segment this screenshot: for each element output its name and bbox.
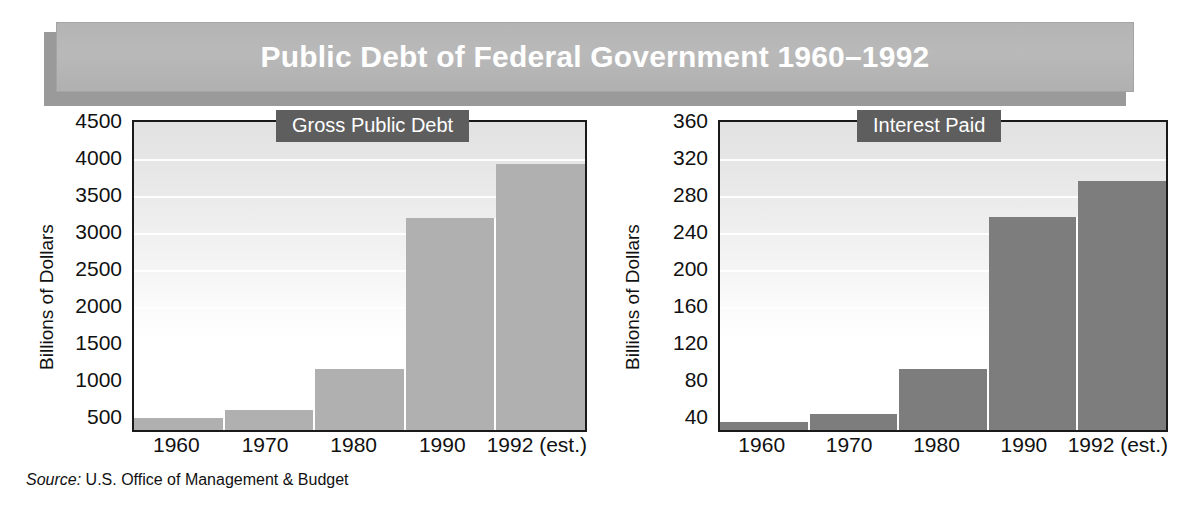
chart-gross-public-debt: Billions of Dollars 4500 4000 3500 3000 … bbox=[24, 112, 589, 482]
bar-1992-est[interactable] bbox=[496, 164, 585, 430]
x-tick-1970: 1970 bbox=[221, 434, 310, 455]
y-tick-3500: 3500 bbox=[75, 184, 122, 205]
plot-area-right bbox=[718, 120, 1168, 432]
x-axis-ticks-left: 1960 1970 1980 1990 1992 (est.) bbox=[132, 434, 587, 455]
plot-area-left bbox=[132, 120, 587, 432]
y-tick-160: 160 bbox=[673, 295, 708, 316]
y-tick-320: 320 bbox=[673, 147, 708, 168]
y-tick-1000: 1000 bbox=[75, 369, 122, 390]
bar-series-interest-paid bbox=[720, 122, 1166, 430]
bar-1992-est[interactable] bbox=[1078, 181, 1166, 430]
y-axis-label-left: Billions of Dollars bbox=[36, 197, 58, 397]
y-axis-ticks-right: 360 320 280 240 200 160 120 80 40 bbox=[648, 112, 714, 432]
x-tick-1960: 1960 bbox=[132, 434, 221, 455]
y-tick-120: 120 bbox=[673, 332, 708, 353]
y-tick-40: 40 bbox=[685, 406, 708, 427]
bar-1960[interactable] bbox=[720, 422, 810, 430]
bar-1980[interactable] bbox=[899, 369, 989, 430]
x-tick-1980: 1980 bbox=[893, 434, 980, 455]
bar-series-gross-public-debt bbox=[134, 122, 585, 430]
y-tick-3000: 3000 bbox=[75, 221, 122, 242]
x-tick-1990: 1990 bbox=[398, 434, 487, 455]
x-tick-1960: 1960 bbox=[718, 434, 805, 455]
bar-1980[interactable] bbox=[315, 369, 406, 430]
chart-title-gross-public-debt: Gross Public Debt bbox=[276, 110, 469, 142]
bar-1970[interactable] bbox=[225, 410, 316, 430]
bar-1990[interactable] bbox=[989, 217, 1079, 430]
y-tick-4000: 4000 bbox=[75, 147, 122, 168]
bar-1970[interactable] bbox=[810, 414, 900, 430]
bar-1960[interactable] bbox=[134, 418, 225, 430]
y-tick-200: 200 bbox=[673, 258, 708, 279]
y-tick-1500: 1500 bbox=[75, 332, 122, 353]
x-tick-1992-est: 1992 (est.) bbox=[487, 434, 587, 455]
x-tick-1992-est: 1992 (est.) bbox=[1068, 434, 1168, 455]
title-banner-plate: Public Debt of Federal Government 1960–1… bbox=[56, 22, 1134, 92]
page-title: Public Debt of Federal Government 1960–1… bbox=[261, 42, 930, 72]
y-axis-label-right: Billions of Dollars bbox=[622, 197, 644, 397]
chart-interest-paid: Billions of Dollars 360 320 280 240 200 … bbox=[612, 112, 1172, 482]
y-axis-ticks-left: 4500 4000 3500 3000 2500 2000 1500 1000 … bbox=[62, 112, 128, 432]
source-label: Source: bbox=[26, 471, 81, 488]
x-tick-1990: 1990 bbox=[980, 434, 1067, 455]
y-tick-4500: 4500 bbox=[75, 110, 122, 131]
source-note: Source: U.S. Office of Management & Budg… bbox=[26, 470, 349, 489]
y-tick-500: 500 bbox=[87, 406, 122, 427]
y-tick-2500: 2500 bbox=[75, 258, 122, 279]
y-tick-240: 240 bbox=[673, 221, 708, 242]
y-tick-80: 80 bbox=[685, 369, 708, 390]
y-tick-2000: 2000 bbox=[75, 295, 122, 316]
x-tick-1970: 1970 bbox=[805, 434, 892, 455]
source-text: U.S. Office of Management & Budget bbox=[81, 471, 348, 488]
title-banner: Public Debt of Federal Government 1960–1… bbox=[44, 22, 1134, 108]
y-tick-280: 280 bbox=[673, 184, 708, 205]
bar-1990[interactable] bbox=[406, 218, 497, 430]
x-tick-1980: 1980 bbox=[309, 434, 398, 455]
y-tick-360: 360 bbox=[673, 110, 708, 131]
chart-title-interest-paid: Interest Paid bbox=[857, 110, 1001, 142]
x-axis-ticks-right: 1960 1970 1980 1990 1992 (est.) bbox=[718, 434, 1168, 455]
